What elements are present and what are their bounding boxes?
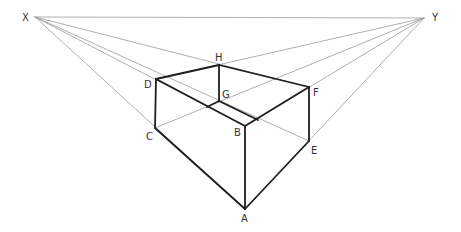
construction-line-XY [35,17,424,18]
label-G: G [222,89,230,100]
edge-DC [155,79,156,128]
partial-edge-1 [219,101,258,120]
construction-line-YC [155,18,424,128]
edge-CA [155,128,245,209]
label-E: E [311,145,317,156]
perspective-diagram: XYHDGFCBEA [0,0,461,232]
edge-DB [156,79,245,126]
label-B: B [234,127,241,138]
label-Y: Y [431,12,439,23]
label-C: C [146,131,153,142]
edge-EA [245,141,309,209]
partial-edge-0 [207,101,219,107]
label-X: X [22,12,29,23]
label-H: H [215,52,223,63]
diagram-canvas: XYHDGFCBEA [0,0,461,232]
construction-lines [35,17,424,209]
label-F: F [313,87,319,98]
box-edges [155,65,309,209]
label-A: A [241,213,248,224]
edge-DH [156,65,219,79]
label-D: D [144,79,152,90]
construction-line-XE [35,17,309,141]
edge-FB [245,87,309,126]
